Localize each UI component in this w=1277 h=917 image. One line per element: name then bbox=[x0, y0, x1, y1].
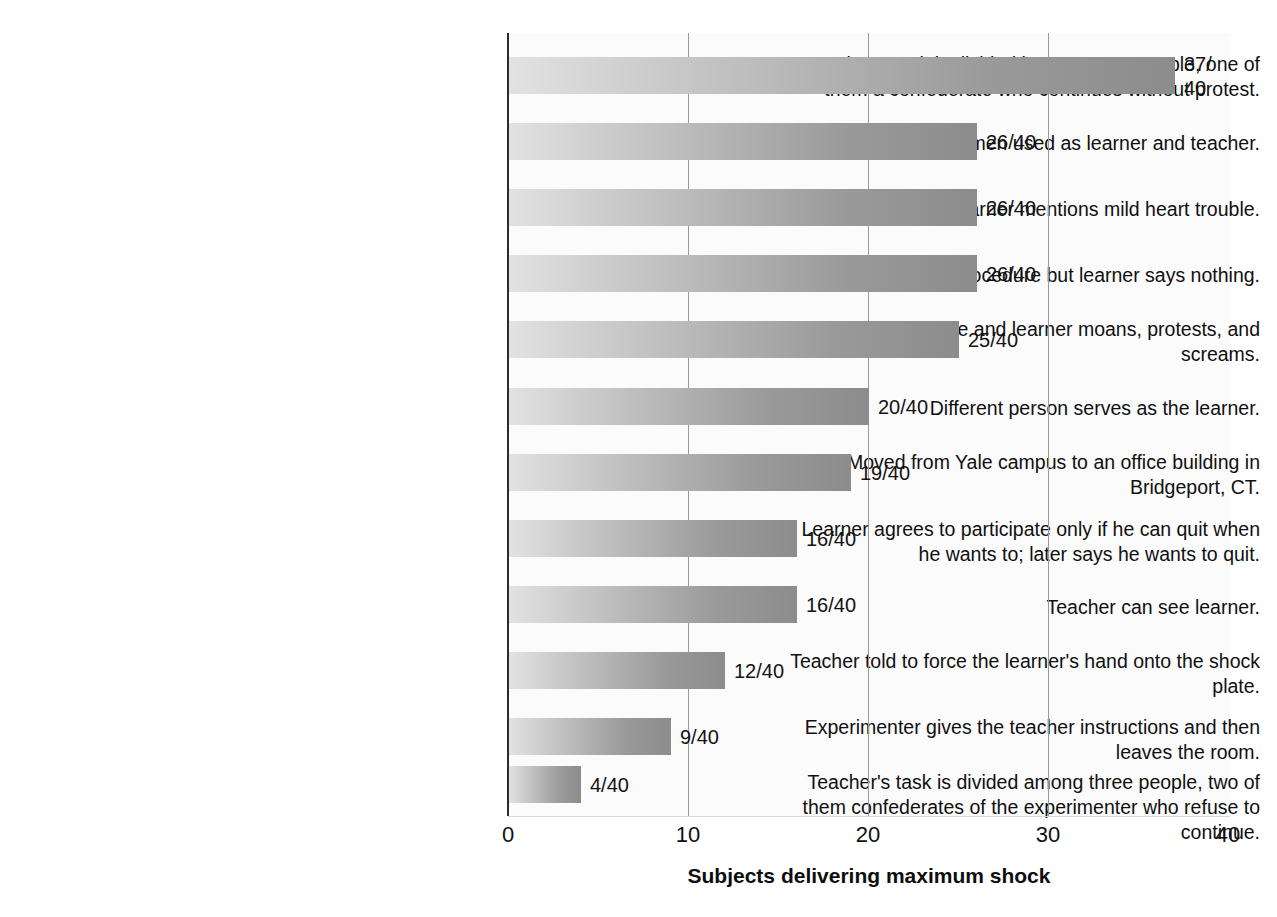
bar-value-label: 19/40 bbox=[860, 461, 910, 484]
bar-value-label: 16/40 bbox=[806, 527, 856, 550]
x-axis-title: Subjects delivering maximum shock bbox=[508, 864, 1230, 888]
bar-value-label: 12/40 bbox=[734, 659, 784, 682]
bar[interactable] bbox=[509, 454, 851, 491]
category-label: Moved from Yale campus to an office buil… bbox=[776, 450, 1276, 500]
x-axis-baseline bbox=[508, 816, 1230, 817]
bar-value-label: 9/40 bbox=[680, 725, 719, 748]
gridline-30 bbox=[1048, 33, 1049, 816]
bar-value-label: 26/40 bbox=[986, 262, 1036, 285]
x-tick-label-10: 10 bbox=[676, 822, 700, 848]
bar-value-label: 20/40 bbox=[878, 395, 928, 418]
bar-value-label: 26/40 bbox=[986, 196, 1036, 219]
y-axis-line bbox=[507, 33, 509, 816]
bar[interactable] bbox=[509, 321, 959, 358]
category-label: Experimenter gives the teacher instructi… bbox=[776, 715, 1276, 765]
bar-value-label: 25/40 bbox=[968, 328, 1018, 351]
x-tick-label-30: 30 bbox=[1036, 822, 1060, 848]
bar[interactable] bbox=[509, 520, 797, 557]
x-tick-label-40: 40 bbox=[1216, 822, 1240, 848]
bar-value-label: 16/40 bbox=[806, 593, 856, 616]
bar[interactable] bbox=[509, 388, 869, 425]
x-tick-label-0: 0 bbox=[502, 822, 514, 848]
bar[interactable] bbox=[509, 586, 797, 623]
bar[interactable] bbox=[509, 189, 977, 226]
bar[interactable] bbox=[509, 766, 581, 803]
bar[interactable] bbox=[509, 652, 725, 689]
bar[interactable] bbox=[509, 255, 977, 292]
bar-value-label: 4/40 bbox=[590, 773, 629, 796]
bar-chart-figure: d o the learner as well as the teacher. … bbox=[0, 0, 1277, 917]
bar-value-label: 26/40 bbox=[986, 130, 1036, 153]
category-label: Teacher's task is divided among three pe… bbox=[776, 770, 1276, 845]
x-tick-label-20: 20 bbox=[856, 822, 880, 848]
bar[interactable] bbox=[509, 57, 1175, 94]
category-label: Teacher told to force the learner's hand… bbox=[776, 649, 1276, 699]
bar[interactable] bbox=[509, 123, 977, 160]
bar-value-label: 37/ 40 bbox=[1184, 52, 1212, 100]
bar[interactable] bbox=[509, 718, 671, 755]
